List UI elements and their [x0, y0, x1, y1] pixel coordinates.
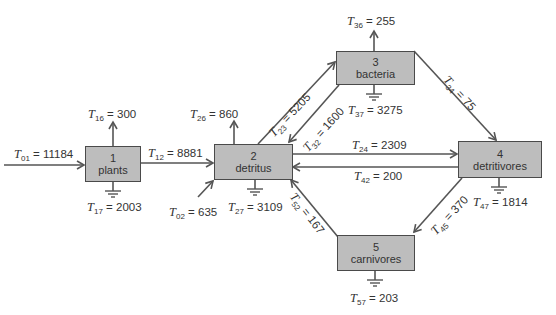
compartment-number: 2 [250, 150, 256, 162]
ground-icon-plants [105, 191, 121, 197]
compartment-number: 1 [110, 152, 116, 164]
compartment-label: detritus [235, 162, 271, 174]
arrow-t02 [198, 181, 213, 197]
ground-icon-detritivores [491, 187, 507, 193]
energy-flow-diagram: 1 plants 2 detritus 3 bacteria 4 detriti… [0, 0, 556, 315]
flow-label-t27: T27 = 3109 [228, 200, 283, 216]
compartment-carnivores: 5 carnivores [337, 235, 415, 271]
flow-label-t16: T16 = 300 [88, 107, 136, 123]
flow-label-t57: T57 = 203 [350, 291, 398, 307]
flow-label-t01: T01 = 11184 [14, 147, 73, 163]
compartment-plants: 1 plants [85, 146, 141, 182]
flow-label-t26: T26 = 860 [190, 107, 238, 123]
compartment-detritus: 2 detritus [214, 144, 293, 180]
compartment-label: bacteria [356, 68, 395, 80]
compartment-label: detritivores [473, 160, 527, 172]
compartment-number: 3 [372, 56, 378, 68]
flow-label-t42: T42 = 200 [354, 169, 402, 185]
flow-label-t36: T36 = 255 [347, 14, 395, 30]
flow-label-t24: T24 = 2309 [352, 138, 407, 154]
compartment-number: 4 [497, 148, 503, 160]
compartment-detritivores: 4 detritivores [458, 141, 542, 178]
flow-label-t37: T37 = 3275 [348, 103, 403, 119]
flow-label-t12: T12 = 8881 [148, 146, 203, 162]
flow-label-t02: T02 = 635 [169, 205, 217, 221]
flow-label-t17: T17 = 2003 [87, 200, 142, 216]
compartment-label: carnivores [351, 253, 402, 265]
compartment-number: 5 [373, 241, 379, 253]
ground-icon-carnivores [367, 280, 383, 286]
ground-icon-detritus [247, 189, 263, 195]
ground-icon-bacteria [366, 94, 382, 100]
compartment-label: plants [98, 164, 127, 176]
compartment-bacteria: 3 bacteria [336, 51, 415, 85]
flow-label-t47: T47 = 1814 [473, 195, 528, 211]
